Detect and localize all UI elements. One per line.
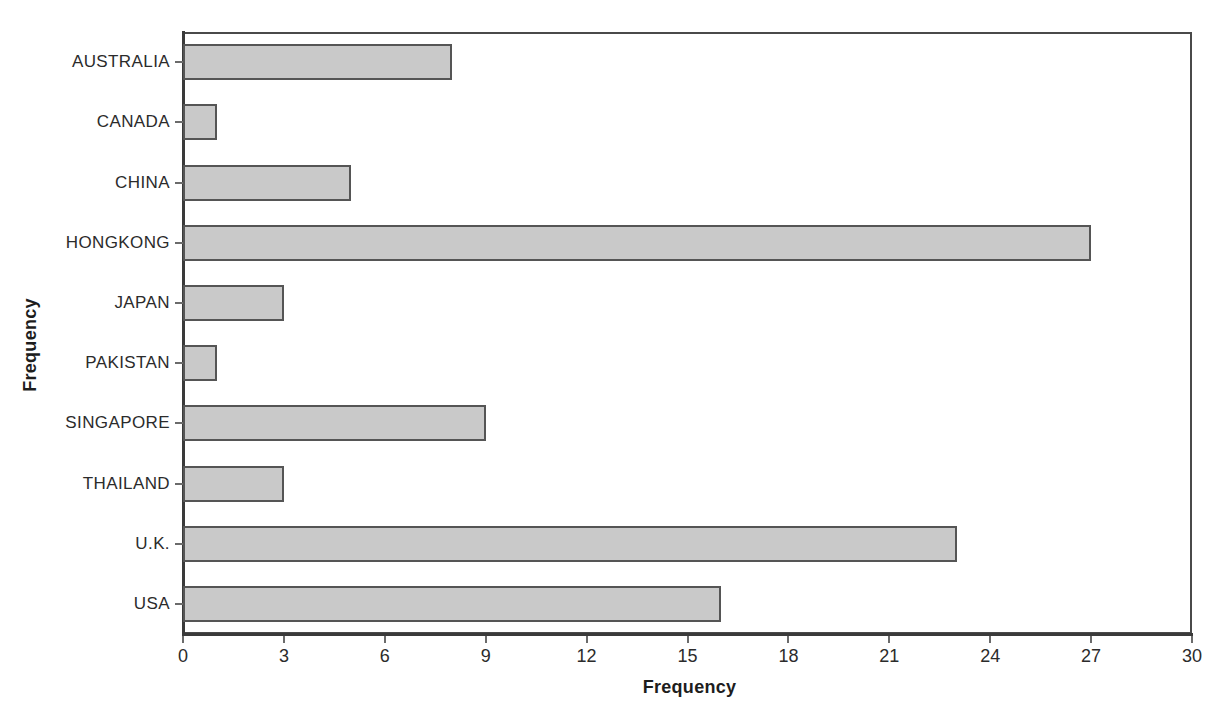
y-tick (175, 242, 183, 244)
bar-canada (183, 104, 217, 140)
x-tick-label-30: 30 (1182, 646, 1202, 667)
x-tick (283, 636, 285, 643)
x-tick (182, 636, 184, 643)
bar-japan (183, 285, 284, 321)
y-tick (175, 543, 183, 545)
x-tick-label-9: 9 (481, 646, 491, 667)
x-axis-title-text: Frequency (643, 677, 737, 698)
y-tick (175, 483, 183, 485)
x-tick (1191, 636, 1193, 643)
bar-pakistan (183, 345, 217, 381)
x-tick-label-12: 12 (577, 646, 597, 667)
x-tick (384, 636, 386, 643)
y-tick (175, 61, 183, 63)
x-tick-label-3: 3 (279, 646, 289, 667)
bar-china (183, 165, 351, 201)
bars-layer (183, 32, 1192, 634)
y-tick (175, 121, 183, 123)
x-tick-label-24: 24 (980, 646, 1000, 667)
x-tick (586, 636, 588, 643)
y-axis-title: Frequency (20, 298, 41, 392)
x-axis-title: Frequency (0, 677, 1224, 698)
bar-usa (183, 586, 721, 622)
y-tick (175, 603, 183, 605)
bar-australia (183, 44, 452, 80)
y-tick-label-canada: CANADA (97, 112, 170, 132)
y-tick-label-australia: AUSTRALIA (72, 52, 170, 72)
y-tick-label-usa: USA (134, 594, 170, 614)
x-tick-label-15: 15 (677, 646, 697, 667)
y-tick-label-japan: JAPAN (114, 293, 170, 313)
x-tick-label-0: 0 (178, 646, 188, 667)
bar-thailand (183, 466, 284, 502)
y-tick (175, 302, 183, 304)
y-tick-label-hongkong: HONGKONG (66, 233, 170, 253)
x-tick (989, 636, 991, 643)
y-tick (175, 182, 183, 184)
y-tick-label-thailand: THAILAND (83, 474, 170, 494)
bar-chart: AUSTRALIACANADACHINAHONGKONGJAPANPAKISTA… (0, 0, 1224, 716)
x-tick (1090, 636, 1092, 643)
x-tick (485, 636, 487, 643)
x-tick (687, 636, 689, 643)
x-tick-label-18: 18 (778, 646, 798, 667)
x-tick-label-27: 27 (1081, 646, 1101, 667)
bar-hongkong (183, 225, 1091, 261)
bar-u-k (183, 526, 957, 562)
y-tick-label-singapore: SINGAPORE (65, 413, 170, 433)
x-tick (888, 636, 890, 643)
x-tick (787, 636, 789, 643)
x-tick-label-6: 6 (380, 646, 390, 667)
x-tick-label-21: 21 (879, 646, 899, 667)
bar-singapore (183, 405, 486, 441)
y-tick-label-u-k: U.K. (135, 534, 170, 554)
y-tick-label-china: CHINA (115, 173, 170, 193)
y-tick-label-pakistan: PAKISTAN (85, 353, 170, 373)
y-tick (175, 362, 183, 364)
y-tick (175, 422, 183, 424)
